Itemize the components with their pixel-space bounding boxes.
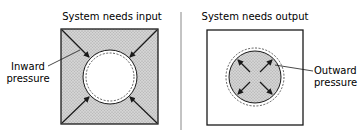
- left-panel: System needs input Inward pressure: [6, 11, 161, 124]
- inward-label-line2: pressure: [6, 73, 49, 84]
- outward-label-line1: Outward: [314, 65, 357, 76]
- pressure-diagram: System needs input Inward pressure Syste…: [0, 0, 363, 138]
- right-panel-title: System needs output: [202, 11, 309, 22]
- left-panel-title: System needs input: [62, 11, 162, 22]
- inward-label-line1: Inward: [11, 61, 45, 72]
- system-circle: [83, 50, 137, 104]
- outward-label-line2: pressure: [314, 77, 357, 88]
- right-panel: System needs output Outward pressure: [202, 11, 358, 125]
- system-circle: [229, 51, 281, 103]
